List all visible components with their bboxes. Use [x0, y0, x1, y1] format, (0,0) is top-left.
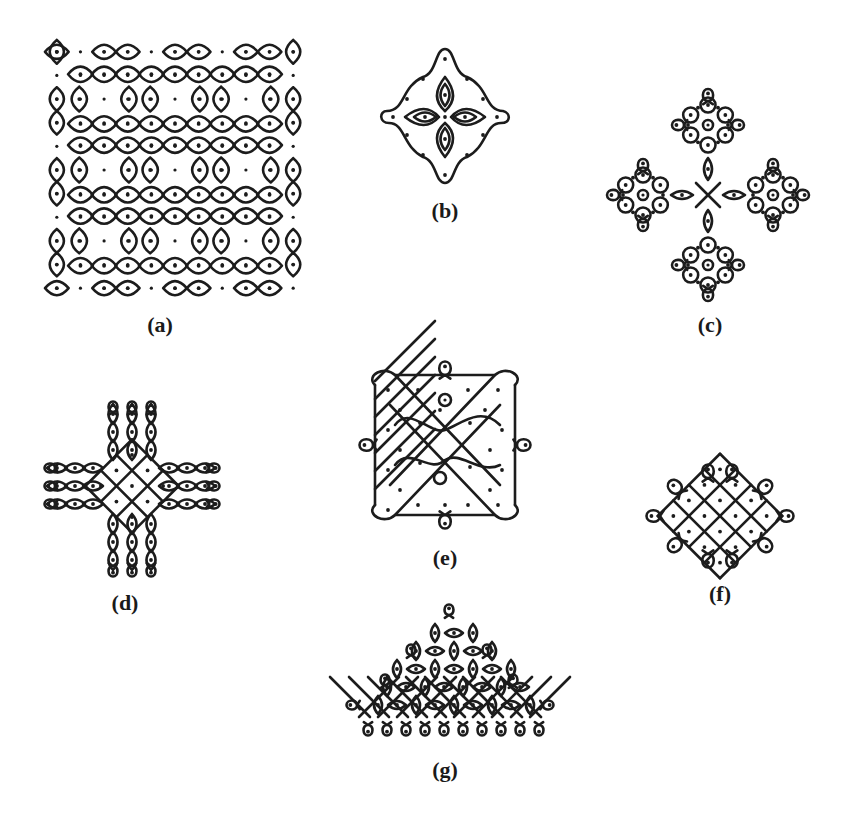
kolam-square-grid-drawing [45, 40, 305, 300]
panel-label-f: (f) [709, 581, 731, 607]
panel-label-c: (c) [698, 312, 722, 338]
kolam-panel-d [47, 400, 217, 578]
kolam-panel-c [603, 85, 813, 305]
kolam-panel-g [345, 605, 555, 747]
kolam-cross-drawing [47, 400, 217, 578]
kolam-panel-e [350, 350, 540, 537]
panel-label-d: (d) [112, 590, 139, 616]
kolam-small-diamond-drawing [640, 450, 798, 582]
panel-label-g: (g) [432, 757, 458, 783]
kolam-panel-a [45, 40, 305, 300]
kolam-square-loops-drawing [350, 350, 540, 537]
kolam-diamond-drawing [383, 45, 506, 185]
kolam-panel-f [640, 450, 798, 582]
kolam-rosettes-drawing [603, 85, 813, 305]
kolam-triangle-drawing [345, 605, 555, 747]
panel-label-a: (a) [147, 312, 173, 338]
panel-label-e: (e) [433, 545, 457, 571]
panel-label-b: (b) [432, 198, 459, 224]
kolam-panel-b [383, 45, 506, 185]
